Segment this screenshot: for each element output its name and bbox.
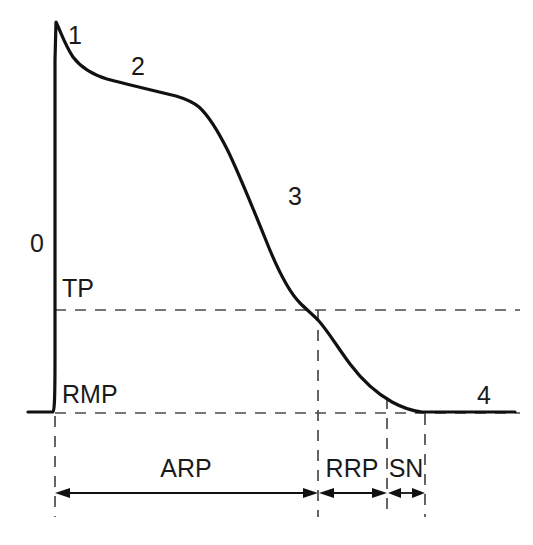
- sn-measure-arrow: [388, 488, 425, 498]
- resting-membrane-potential-label: RMP: [62, 380, 118, 408]
- phase-label-2: 2: [131, 52, 145, 80]
- arp-measure-arrow: [55, 488, 318, 498]
- rrp-measure-arrow: [319, 488, 387, 498]
- phase-label-4: 4: [477, 381, 491, 409]
- threshold-potential-label: TP: [62, 274, 94, 302]
- arp-label: ARP: [160, 454, 211, 482]
- action-potential-curve: [28, 22, 515, 412]
- sn-label: SN: [389, 454, 424, 482]
- phase-label-0: 0: [30, 229, 44, 257]
- phase-label-3: 3: [288, 182, 302, 210]
- rrp-label: RRP: [326, 454, 379, 482]
- action-potential-figure: 0 1 2 3 4 TP RMP ARP RRP SN: [0, 0, 533, 545]
- phase-label-1: 1: [68, 21, 82, 49]
